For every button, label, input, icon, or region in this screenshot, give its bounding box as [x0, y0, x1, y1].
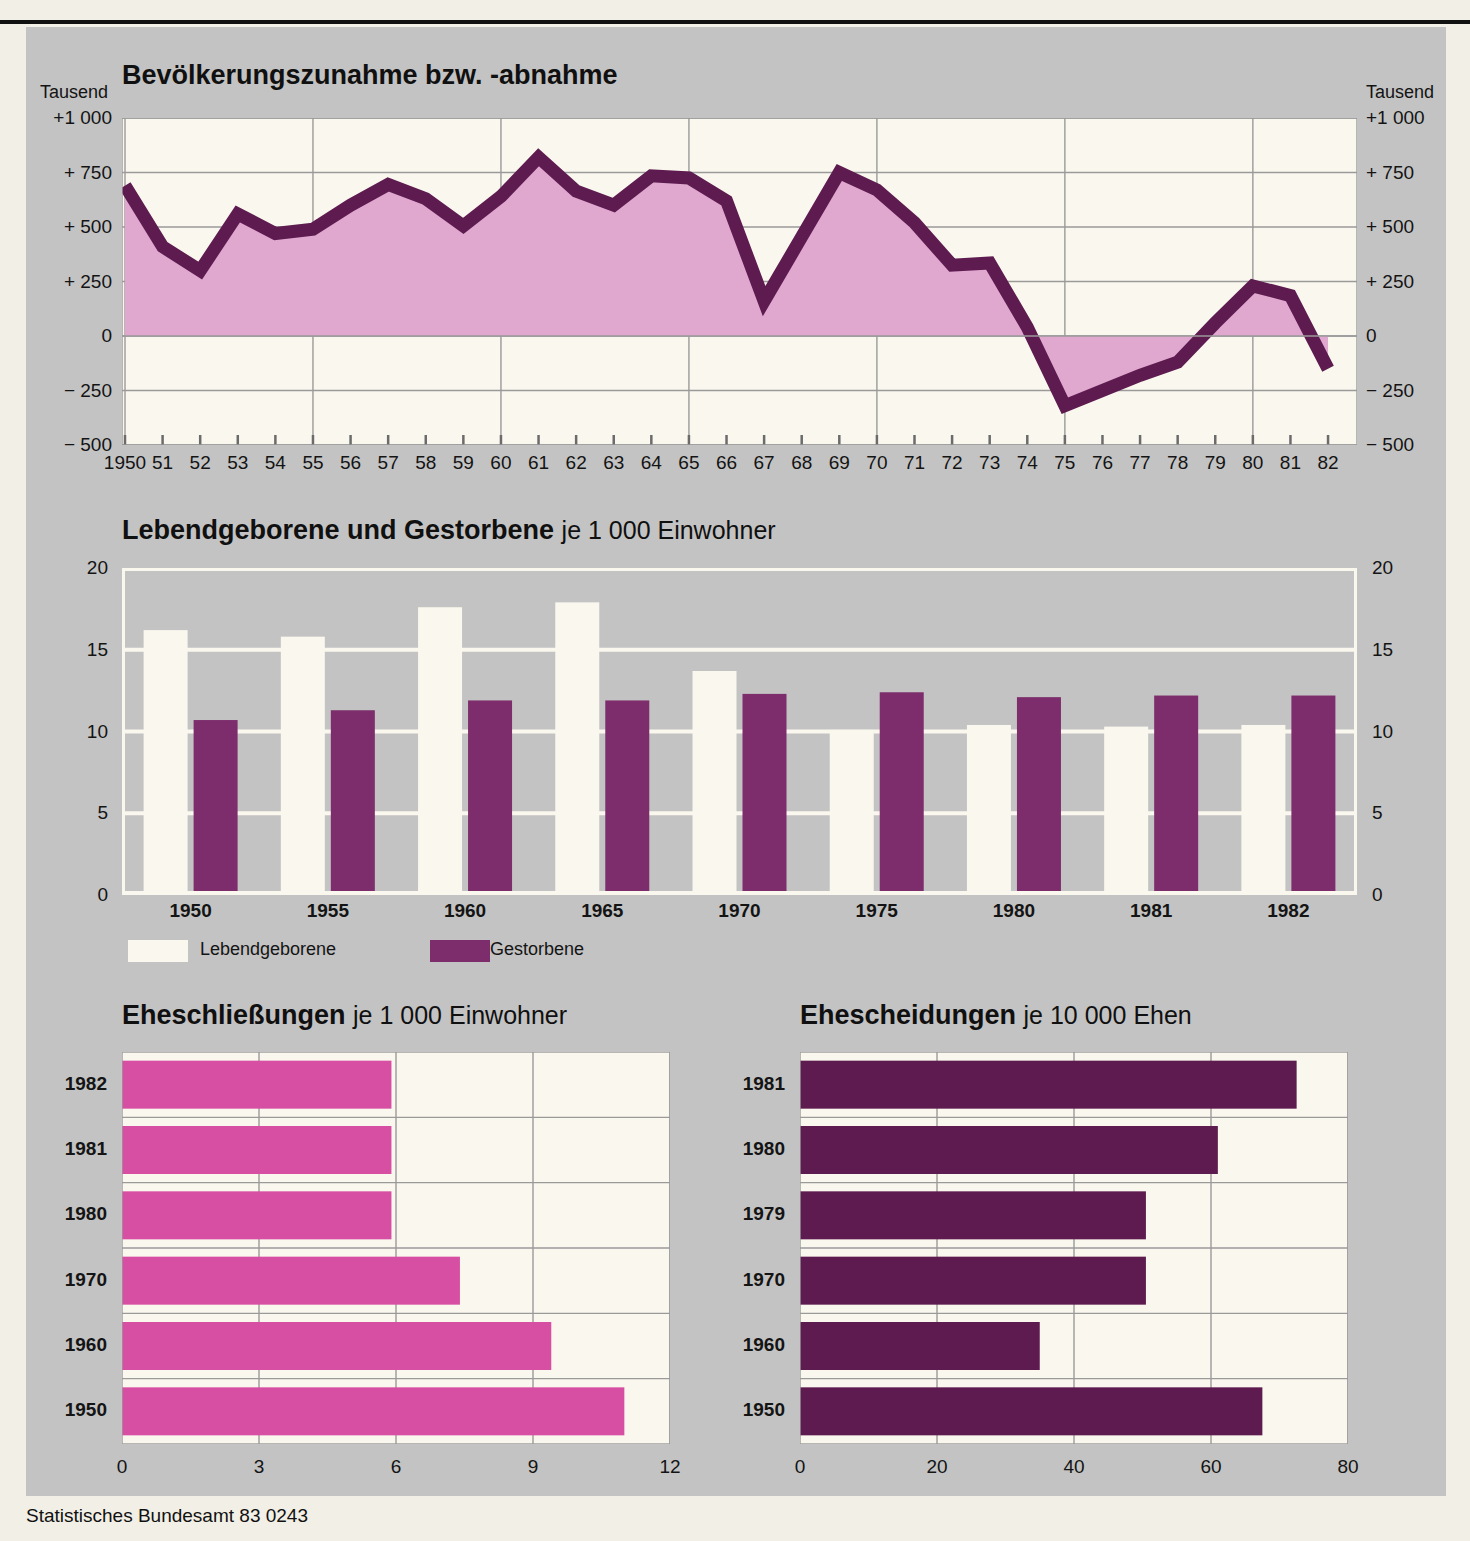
chart2-xtick-3: 1965: [547, 900, 657, 922]
chart1-ytick-right-6: − 500: [1366, 434, 1458, 456]
chart2-xtick-7: 1981: [1096, 900, 1206, 922]
chart4-ytick-4: 1960: [685, 1334, 785, 1356]
chart4-xtick-1: 20: [902, 1456, 972, 1478]
chart4-ytick-3: 1970: [685, 1269, 785, 1291]
chart2-xtick-2: 1960: [410, 900, 520, 922]
chart3-ytick-4: 1960: [7, 1334, 107, 1356]
chart4-title: Ehescheidungen je 10 000 Ehen: [800, 1000, 1192, 1031]
chart3-xtick-1: 3: [224, 1456, 294, 1478]
chart1-ytick-right-2: + 500: [1366, 216, 1458, 238]
chart2-title-sub: je 1 000 Einwohner: [562, 516, 776, 544]
chart2-xtick-6: 1980: [959, 900, 1069, 922]
chart4-xtick-4: 80: [1313, 1456, 1383, 1478]
chart2-xtick-1: 1955: [273, 900, 383, 922]
chart2-xtick-8: 1982: [1233, 900, 1343, 922]
chart1-ytick-left-0: +1 000: [20, 107, 112, 129]
chart1-ytick-right-5: − 250: [1366, 380, 1458, 402]
chart4-xtick-2: 40: [1039, 1456, 1109, 1478]
chart1-canvas: [122, 118, 1357, 445]
chart2-ytick-right-0: 0: [1372, 884, 1432, 906]
chart3-canvas: [122, 1052, 670, 1444]
chart2-legend-label-1: Gestorbene: [490, 939, 584, 960]
chart2-ytick-left-4: 20: [20, 557, 108, 579]
header-cut-area: [0, 0, 1120, 20]
chart3-title-sub: je 1 000 Einwohner: [353, 1001, 567, 1029]
chart2-ytick-left-3: 15: [20, 639, 108, 661]
chart1-ytick-right-3: + 250: [1366, 271, 1458, 293]
chart2-legend-swatch-0: [128, 940, 188, 962]
chart1-ytick-right-4: 0: [1366, 325, 1458, 347]
chart2-title: Lebendgeborene und Gestorbene je 1 000 E…: [122, 515, 776, 546]
chart1-ytick-left-5: − 250: [20, 380, 112, 402]
chart4-ytick-5: 1950: [685, 1399, 785, 1421]
chart4-ytick-0: 1981: [685, 1073, 785, 1095]
chart3-ytick-1: 1981: [7, 1138, 107, 1160]
chart1-title: Bevölkerungszunahme bzw. -abnahme: [122, 60, 618, 91]
chart4-canvas: [800, 1052, 1348, 1444]
chart3-ytick-3: 1970: [7, 1269, 107, 1291]
chart2-ytick-right-3: 15: [1372, 639, 1432, 661]
chart1-xtick-32: 82: [1298, 452, 1358, 474]
chart3-ytick-5: 1950: [7, 1399, 107, 1421]
chart2-canvas: [122, 568, 1357, 895]
chart1-ytick-left-3: + 250: [20, 271, 112, 293]
chart2-xtick-4: 1970: [685, 900, 795, 922]
source-note: Statistisches Bundesamt 83 0243: [26, 1505, 308, 1527]
chart3-xtick-0: 0: [87, 1456, 157, 1478]
chart2-title-main: Lebendgeborene und Gestorbene: [122, 515, 554, 545]
chart3-ytick-0: 1982: [7, 1073, 107, 1095]
header-rule: [0, 20, 1470, 24]
chart4-ytick-1: 1980: [685, 1138, 785, 1160]
chart3-xtick-2: 6: [361, 1456, 431, 1478]
chart1-ytick-right-1: + 750: [1366, 162, 1458, 184]
chart1-unit-right: Tausend: [1366, 82, 1434, 103]
chart2-ytick-left-2: 10: [20, 721, 108, 743]
chart2-legend-label-0: Lebendgeborene: [200, 939, 336, 960]
chart4-xtick-3: 60: [1176, 1456, 1246, 1478]
chart2-ytick-left-0: 0: [20, 884, 108, 906]
chart2-ytick-right-2: 10: [1372, 721, 1432, 743]
chart2-xtick-0: 1950: [136, 900, 246, 922]
chart3-title: Eheschließungen je 1 000 Einwohner: [122, 1000, 567, 1031]
chart3-xtick-3: 9: [498, 1456, 568, 1478]
chart1-ytick-left-4: 0: [20, 325, 112, 347]
chart3-title-main: Eheschließungen: [122, 1000, 346, 1030]
chart2-legend-swatch-1: [430, 940, 490, 962]
chart1-ytick-left-1: + 750: [20, 162, 112, 184]
chart2-ytick-left-1: 5: [20, 802, 108, 824]
chart4-title-sub: je 10 000 Ehen: [1024, 1001, 1192, 1029]
chart3-ytick-2: 1980: [7, 1203, 107, 1225]
chart1-ytick-left-2: + 500: [20, 216, 112, 238]
chart1-ytick-right-0: +1 000: [1366, 107, 1458, 129]
chart4-xtick-0: 0: [765, 1456, 835, 1478]
chart2-ytick-right-4: 20: [1372, 557, 1432, 579]
chart2-xtick-5: 1975: [822, 900, 932, 922]
chart2-ytick-right-1: 5: [1372, 802, 1432, 824]
chart3-xtick-4: 12: [635, 1456, 705, 1478]
chart1-unit-left: Tausend: [40, 82, 108, 103]
chart4-title-main: Ehescheidungen: [800, 1000, 1016, 1030]
chart4-ytick-2: 1979: [685, 1203, 785, 1225]
